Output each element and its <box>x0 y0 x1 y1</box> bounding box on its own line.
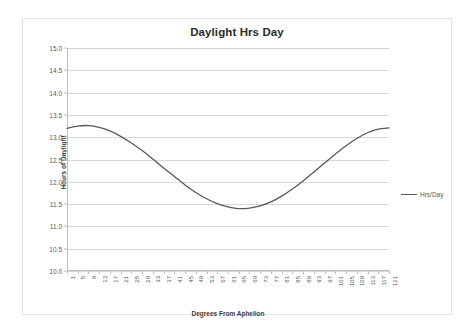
x-tick-label: 117 <box>381 276 387 286</box>
y-tick-label: 15.0 <box>49 45 62 52</box>
x-axis-title: Degrees From Aphelion <box>67 310 389 317</box>
x-tick-mark <box>196 271 197 274</box>
x-tick-mark <box>217 271 218 274</box>
x-tick-mark <box>314 271 315 274</box>
x-tick-mark <box>142 271 143 274</box>
legend-item-label: Hrs/Day <box>420 191 443 198</box>
x-tick-mark <box>271 271 272 274</box>
x-tick-label: 101 <box>338 276 344 286</box>
x-tick-label: 65 <box>241 276 247 283</box>
legend-line-icon <box>401 194 417 196</box>
x-tick-label: 1 <box>70 276 76 279</box>
x-tick-mark <box>228 271 229 274</box>
y-tick-label: 12.0 <box>49 178 62 185</box>
x-tick-mark <box>346 271 347 274</box>
x-tick-label: 9 <box>91 276 97 279</box>
y-tick-label: 11.0 <box>50 223 62 230</box>
x-tick-mark <box>292 271 293 274</box>
y-tick-label: 10.0 <box>49 268 62 275</box>
x-tick-mark <box>99 271 100 274</box>
y-tick-label: 12.5 <box>49 156 62 163</box>
x-tick-label: 77 <box>274 276 280 283</box>
x-tick-label: 97 <box>327 276 333 283</box>
x-tick-label: 81 <box>284 276 290 283</box>
x-tick-mark <box>185 271 186 274</box>
x-tick-mark <box>303 271 304 274</box>
x-tick-mark <box>78 271 79 274</box>
chart-legend: Hrs/Day <box>401 191 443 198</box>
y-tick-label: 14.5 <box>49 67 62 74</box>
x-tick-mark <box>282 271 283 274</box>
x-tick-mark <box>88 271 89 274</box>
x-tick-label: 5 <box>80 276 86 279</box>
y-tick-label: 10.5 <box>49 245 62 252</box>
x-tick-label: 29 <box>145 276 151 283</box>
x-tick-mark <box>249 271 250 274</box>
x-tick-label: 41 <box>177 276 183 283</box>
x-tick-label: 33 <box>155 276 161 283</box>
x-tick-label: 93 <box>316 276 322 283</box>
x-tick-label: 37 <box>166 276 172 283</box>
x-tick-mark <box>67 271 68 274</box>
series-line-hrs-day <box>67 48 389 271</box>
x-tick-mark <box>174 271 175 274</box>
x-tick-mark <box>378 271 379 274</box>
x-tick-label: 45 <box>188 276 194 283</box>
x-tick-mark <box>260 271 261 274</box>
x-tick-label: 73 <box>263 276 269 283</box>
x-tick-label: 53 <box>209 276 215 283</box>
x-tick-mark <box>389 271 390 274</box>
x-tick-label: 109 <box>359 276 365 286</box>
x-tick-mark <box>368 271 369 274</box>
x-tick-label: 69 <box>252 276 258 283</box>
x-tick-mark <box>239 271 240 274</box>
x-tick-mark <box>164 271 165 274</box>
x-tick-label: 61 <box>231 276 237 283</box>
x-tick-label: 57 <box>220 276 226 283</box>
x-tick-label: 113 <box>370 276 376 286</box>
chart-title: Daylight Hrs Day <box>23 26 451 38</box>
x-tick-label: 13 <box>102 276 108 283</box>
x-tick-label: 85 <box>295 276 301 283</box>
x-tick-label: 25 <box>134 276 140 283</box>
x-tick-mark <box>153 271 154 274</box>
x-tick-mark <box>325 271 326 274</box>
x-tick-mark <box>110 271 111 274</box>
x-tick-label: 17 <box>113 276 119 283</box>
x-tick-label: 21 <box>123 276 129 283</box>
x-tick-mark <box>207 271 208 274</box>
y-tick-label: 13.5 <box>49 111 62 118</box>
x-tick-label: 49 <box>198 276 204 283</box>
x-tick-label: 121 <box>392 276 398 286</box>
y-tick-label: 13.0 <box>49 134 62 141</box>
x-tick-mark <box>131 271 132 274</box>
x-tick-label: 105 <box>349 276 355 286</box>
x-tick-mark <box>357 271 358 274</box>
x-tick-mark <box>121 271 122 274</box>
y-tick-label: 14.0 <box>49 89 62 96</box>
x-tick-mark <box>335 271 336 274</box>
x-tick-label: 89 <box>306 276 312 283</box>
y-tick-label: 11.5 <box>50 201 62 208</box>
chart-frame: Daylight Hrs Day Hours of Daylight 10.01… <box>22 18 452 315</box>
plot-area: 10.010.511.011.512.012.513.013.514.014.5… <box>67 48 389 271</box>
